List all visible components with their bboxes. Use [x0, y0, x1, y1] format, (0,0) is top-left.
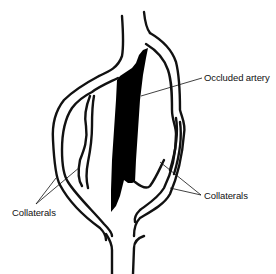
occluded-artery-label: Occluded artery: [204, 72, 270, 83]
left-collaterals: [53, 76, 118, 240]
collaterals-right-label: Collaterals: [204, 190, 248, 201]
artery-diagram: [0, 0, 276, 274]
collaterals-left-label: Collaterals: [12, 207, 56, 218]
